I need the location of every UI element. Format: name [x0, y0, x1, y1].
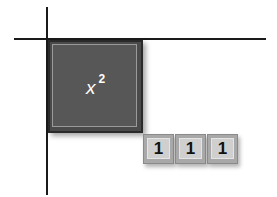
unit-tile: 1 [143, 134, 174, 164]
unit-tile-row: 1 1 1 [143, 134, 239, 164]
x-squared-base: x [86, 77, 96, 98]
x-squared-label: x2 [50, 76, 141, 99]
unit-tile: 1 [175, 134, 206, 164]
unit-tile-label: 1 [211, 138, 234, 159]
unit-tile-label: 1 [147, 138, 170, 159]
unit-tile-label: 1 [179, 138, 202, 159]
unit-tile: 1 [207, 134, 238, 164]
x-squared-tile: x2 [48, 40, 143, 133]
x-squared-exponent: 2 [98, 72, 105, 86]
